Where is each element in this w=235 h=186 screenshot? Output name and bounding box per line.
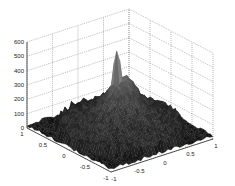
- x-tick-label: -1: [111, 176, 117, 182]
- x-tick-label: 0.5: [186, 151, 195, 157]
- z-tick-label: 400: [14, 68, 25, 74]
- y-tick-label: 0.5: [39, 142, 48, 148]
- z-tick-label: 100: [14, 111, 25, 117]
- y-tick-label: -1: [103, 175, 109, 181]
- x-tick-label: 1: [214, 143, 218, 149]
- y-tick-label: -0.5: [80, 164, 91, 170]
- z-tick-label: 200: [14, 96, 25, 102]
- z-tick-label: 300: [14, 82, 25, 88]
- z-tick-label: 500: [14, 53, 25, 59]
- z-axis-ticks: 0100200300400500600: [14, 39, 25, 131]
- x-tick-label: -0.5: [134, 168, 145, 174]
- surface-mesh: [27, 51, 213, 169]
- x-tick-label: 0: [163, 160, 167, 166]
- y-tick-label: 1: [20, 131, 24, 137]
- surface-plot: 0100200300400500600 -1-0.500.51 10.50-0.…: [0, 0, 235, 186]
- y-tick-label: 0: [62, 153, 66, 159]
- z-tick-label: 600: [14, 39, 25, 45]
